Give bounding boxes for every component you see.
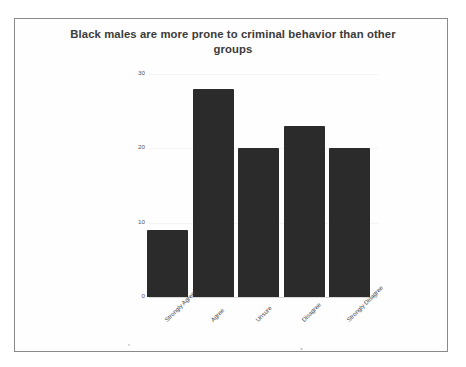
chart-frame: Black males are more prone to criminal b… <box>14 18 448 352</box>
bar-rect <box>284 126 325 297</box>
x-axis-category-label: Unsure <box>254 304 273 323</box>
bar-disagree[interactable] <box>284 74 325 297</box>
plot-area: 0102030 <box>133 74 378 297</box>
y-axis-tick-label: 30 <box>125 69 145 76</box>
bar-agree[interactable] <box>193 74 234 297</box>
bar-strongly-disagree[interactable] <box>329 74 370 297</box>
bar-rect <box>193 89 234 297</box>
scan-speckle <box>300 348 303 350</box>
bar-rect <box>147 230 188 297</box>
y-axis-tick-label: 0 <box>125 292 145 299</box>
bar-rect <box>238 148 279 297</box>
bar-unsure[interactable] <box>238 74 279 297</box>
x-axis-labels-group: Strongly AgreeAgreeUnsureDisagreeStrongl… <box>147 318 407 367</box>
bar-rect <box>329 148 370 297</box>
y-axis-tick-label: 20 <box>125 143 145 150</box>
x-axis-category-label: Agree <box>209 306 225 322</box>
scan-speckle <box>128 344 130 346</box>
bars-group <box>147 74 378 297</box>
x-axis-category-label: Disagree <box>300 301 322 323</box>
chart-title: Black males are more prone to criminal b… <box>55 27 411 57</box>
bar-strongly-agree[interactable] <box>147 74 188 297</box>
y-axis-tick-label: 10 <box>125 218 145 225</box>
